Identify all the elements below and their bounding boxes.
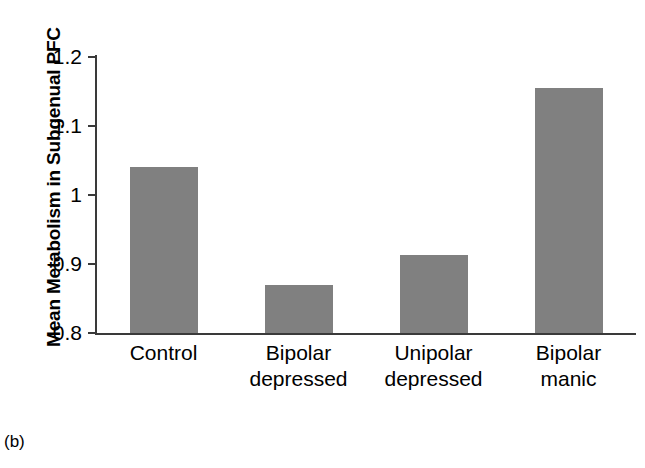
y-tick-mark [88,125,96,127]
bar [265,285,333,333]
y-tick-label: 1 [22,184,82,205]
y-tick-mark [88,332,96,334]
x-axis-category-label: Bipolarmanic [479,340,645,392]
figure-panel-b: Mean Metabolism in Subgenual PFC 0.80.91… [0,0,645,468]
y-tick-mark [88,263,96,265]
bar [400,255,468,333]
y-tick-label: 0.9 [22,253,82,274]
x-axis-line [95,333,636,335]
category-label-line: manic [479,366,645,392]
y-tick-label: 1.2 [22,46,82,67]
y-tick-mark [88,194,96,196]
plot-area [96,57,636,333]
y-tick-mark [88,56,96,58]
category-label-line: Bipolar [479,340,645,366]
y-tick-label: 1.1 [22,115,82,136]
bar [535,88,603,333]
panel-caption: (b) [4,432,25,452]
bar [130,167,198,333]
